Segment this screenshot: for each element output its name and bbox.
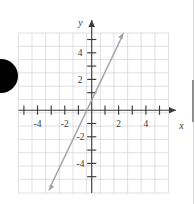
scrollbar-thumb[interactable] (192, 80, 194, 122)
y-tick-label-2: 2 (78, 75, 83, 85)
x-axis-arrowhead-icon (169, 107, 176, 114)
plotted-line (48, 32, 124, 191)
x-tick-label-neg2: -2 (61, 119, 69, 129)
coordinate-plane-svg: -4 -2 2 4 4 2 -2 -4 x y (0, 0, 195, 204)
line-lower-arrowhead-icon (48, 185, 54, 192)
x-tick-label-neg4: -4 (34, 119, 42, 129)
x-tick-label-4: 4 (144, 119, 149, 129)
y-tick-label-4: 4 (78, 48, 83, 58)
y-axis-arrowhead-icon (88, 20, 95, 27)
y-tick-label-neg2: -2 (77, 132, 85, 142)
y-axis-label: y (77, 17, 83, 28)
graph-figure: -4 -2 2 4 4 2 -2 -4 x y (0, 0, 195, 204)
x-axis-label: x (178, 120, 184, 131)
x-tick-label-2: 2 (116, 119, 121, 129)
y-tick-label-neg4: -4 (77, 159, 85, 169)
